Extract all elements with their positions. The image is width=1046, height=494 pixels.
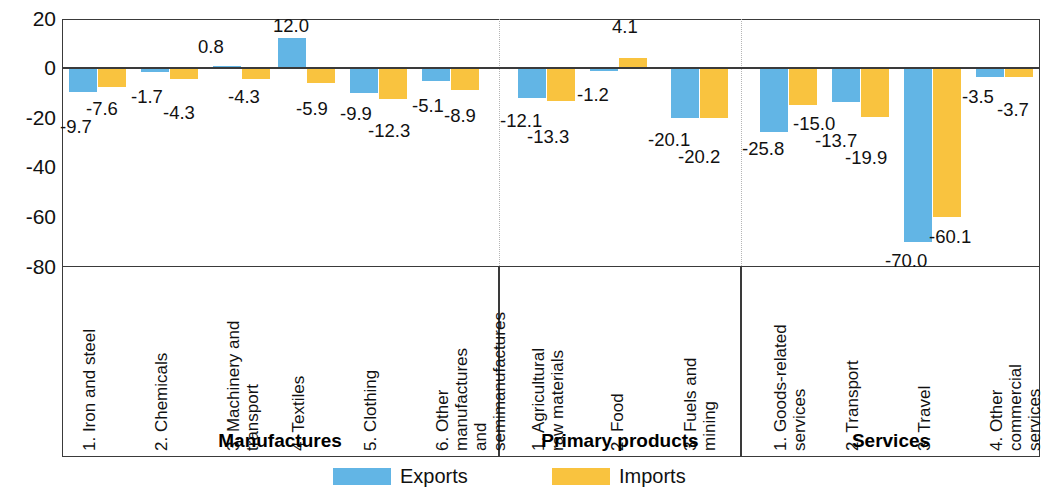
value-exports-machinery-and-transport: 0.8 xyxy=(198,38,224,57)
y-tick-m80: -80 xyxy=(4,256,56,277)
category-label-fuels-and-mining: 3. Fuels and mining xyxy=(681,275,719,451)
value-exports-other-commercial-services: -3.5 xyxy=(962,88,994,107)
group-title-primary-products: Primary products xyxy=(500,430,740,452)
value-exports-textiles: 12.0 xyxy=(273,17,309,36)
category-label-other-manufactures: 6. Other manufactures and semimanufactur… xyxy=(433,275,509,451)
zero-baseline xyxy=(62,67,1040,69)
value-imports-food: 4.1 xyxy=(612,18,638,37)
bar-exports-clothing xyxy=(350,68,378,93)
y-tick-m60: -60 xyxy=(4,206,56,227)
bar-exports-textiles xyxy=(278,38,306,68)
category-label-travel: 3. Travel xyxy=(915,275,934,451)
bar-imports-travel xyxy=(933,68,961,217)
category-label-machinery-and-transport: 3. Machinery and transport xyxy=(224,275,262,451)
category-label-transport: 2. Transport xyxy=(843,275,862,451)
bar-exports-transport xyxy=(832,68,860,102)
bar-imports-chemicals xyxy=(170,68,198,79)
bar-imports-other-manufactures xyxy=(451,68,479,90)
bar-exports-other-manufactures xyxy=(422,68,450,81)
value-exports-goods-related-services: -25.8 xyxy=(742,140,784,159)
value-imports-other-commercial-services: -3.7 xyxy=(997,101,1029,120)
legend-label-imports: Imports xyxy=(619,466,686,486)
group-title-services: Services xyxy=(742,430,1040,452)
bar-imports-goods-related-services xyxy=(789,68,817,105)
y-tick-m20: -20 xyxy=(4,107,56,128)
bar-exports-travel xyxy=(904,68,932,242)
legend-swatch-imports-icon xyxy=(552,468,610,485)
category-label-chemicals: 2. Chemicals xyxy=(152,275,171,451)
value-exports-chemicals: -1.7 xyxy=(131,88,163,107)
bar-imports-transport xyxy=(861,68,889,117)
value-exports-food: -1.2 xyxy=(577,86,609,105)
value-imports-iron-and-steel: -7.6 xyxy=(86,100,118,119)
bar-exports-fuels-and-mining xyxy=(671,68,699,118)
legend-swatch-exports-icon xyxy=(333,468,391,485)
legend-item-exports: Exports xyxy=(333,466,468,486)
y-tick-20: 20 xyxy=(4,8,56,29)
category-label-agricultural-raw-materials: 1. Agricultural raw materials xyxy=(529,275,567,451)
value-imports-fuels-and-mining: -20.2 xyxy=(678,148,720,167)
bar-imports-fuels-and-mining xyxy=(700,68,728,118)
bar-imports-agricultural-raw-materials xyxy=(547,68,575,101)
bar-exports-other-commercial-services xyxy=(976,68,1004,77)
value-exports-iron-and-steel: -9.7 xyxy=(60,118,92,137)
bar-imports-other-commercial-services xyxy=(1005,68,1033,77)
y-tick-m40: -40 xyxy=(4,156,56,177)
category-label-goods-related-services: 1. Goods-related services xyxy=(771,275,809,451)
y-tick-0: 0 xyxy=(4,57,56,78)
value-imports-other-manufactures: -8.9 xyxy=(444,107,476,126)
bar-exports-agricultural-raw-materials xyxy=(518,68,546,98)
category-label-clothing: 5. Clothing xyxy=(361,275,380,451)
bar-imports-machinery-and-transport xyxy=(242,68,270,79)
value-imports-textiles: -5.9 xyxy=(296,100,328,119)
bar-imports-iron-and-steel xyxy=(98,68,126,87)
bar-exports-goods-related-services xyxy=(760,68,788,132)
category-label-food: 2. Food xyxy=(608,275,627,451)
bar-imports-clothing xyxy=(379,68,407,99)
bar-imports-textiles xyxy=(307,68,335,83)
value-imports-clothing: -12.3 xyxy=(368,122,410,141)
chart-page: 20 0 -20 -40 -60 -80 xyxy=(0,0,1046,494)
value-imports-chemicals: -4.3 xyxy=(163,104,195,123)
value-imports-agricultural-raw-materials: -13.3 xyxy=(527,128,569,147)
category-label-iron-and-steel: 1. Iron and steel xyxy=(80,275,99,451)
legend-label-exports: Exports xyxy=(400,466,468,486)
legend-item-imports: Imports xyxy=(552,466,686,486)
chart-legend: Exports Imports xyxy=(0,462,1046,492)
value-imports-transport: -19.9 xyxy=(845,149,887,168)
value-imports-travel: -60.1 xyxy=(929,228,971,247)
bar-exports-iron-and-steel xyxy=(69,68,97,92)
panel-separator-2 xyxy=(740,267,742,457)
category-label-other-commercial-services: 4. Other commercial services xyxy=(987,275,1044,451)
value-imports-machinery-and-transport: -4.3 xyxy=(228,88,260,107)
divider-manufactures-primary xyxy=(499,19,500,266)
value-exports-other-manufactures: -5.1 xyxy=(412,97,444,116)
category-label-textiles: 4. Textiles xyxy=(289,275,308,451)
group-title-manufactures: Manufactures xyxy=(62,430,498,452)
